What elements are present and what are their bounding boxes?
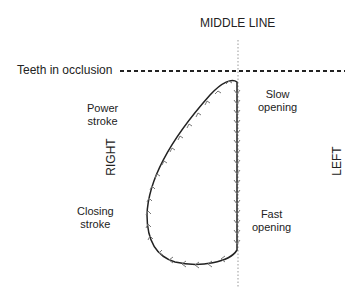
closing-line-2: stroke <box>77 218 114 231</box>
closing-stroke-label: Closing stroke <box>77 205 114 231</box>
fast-line-2: opening <box>252 221 291 234</box>
power-line-2: stroke <box>87 115 118 128</box>
slow-line-2: opening <box>258 101 297 114</box>
power-stroke-label: Power stroke <box>87 102 118 128</box>
chewing-loop-path <box>147 81 237 265</box>
teeth-in-occlusion-label: Teeth in occlusion <box>17 64 112 77</box>
left-side-label: LEFT <box>330 146 344 175</box>
slow-line-1: Slow <box>258 88 297 101</box>
middle-line-label: MIDDLE LINE <box>200 17 275 30</box>
closing-arrows <box>146 81 232 268</box>
slow-opening-label: Slow opening <box>258 88 297 114</box>
fast-line-1: Fast <box>252 208 291 221</box>
right-side-label: RIGHT <box>104 138 118 175</box>
chewing-cycle-diagram <box>0 0 348 291</box>
power-line-1: Power <box>87 102 118 115</box>
fast-opening-label: Fast opening <box>252 208 291 234</box>
closing-line-1: Closing <box>77 205 114 218</box>
